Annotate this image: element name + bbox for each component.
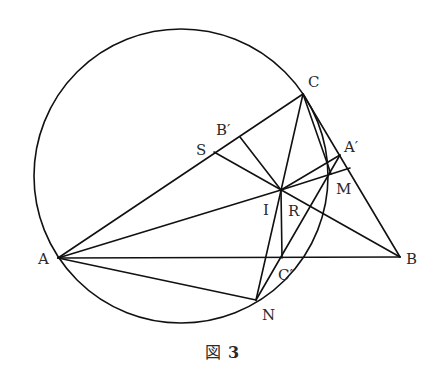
point-label: A [37,250,49,268]
point-label: A′ [343,138,359,156]
segment-S-B [214,152,400,257]
figure-caption-number: 3 [228,343,239,362]
segment-A-B [58,257,400,258]
segment-A-I [58,190,281,258]
segment-Bp-I [240,137,281,190]
geometry-figure: ABCSB′A′MIRC′N 図 3 [0,0,445,383]
point-label: C [308,73,319,91]
point-label: N [262,306,275,324]
point-label: M [336,180,351,198]
point-label: R [288,202,300,220]
point-label: C′ [278,266,293,284]
point-label: S [196,141,206,159]
segment-A-C [58,94,303,258]
figure-caption-prefix: 図 [205,343,221,362]
point-labels: ABCSB′A′MIRC′N [37,73,417,324]
segment-A-N [58,258,256,300]
point-label: B [406,250,417,268]
point-label: I [263,201,269,219]
segment-N-Ap [256,155,340,300]
point-label: B′ [216,121,231,139]
segment-I-Cp [281,190,282,258]
